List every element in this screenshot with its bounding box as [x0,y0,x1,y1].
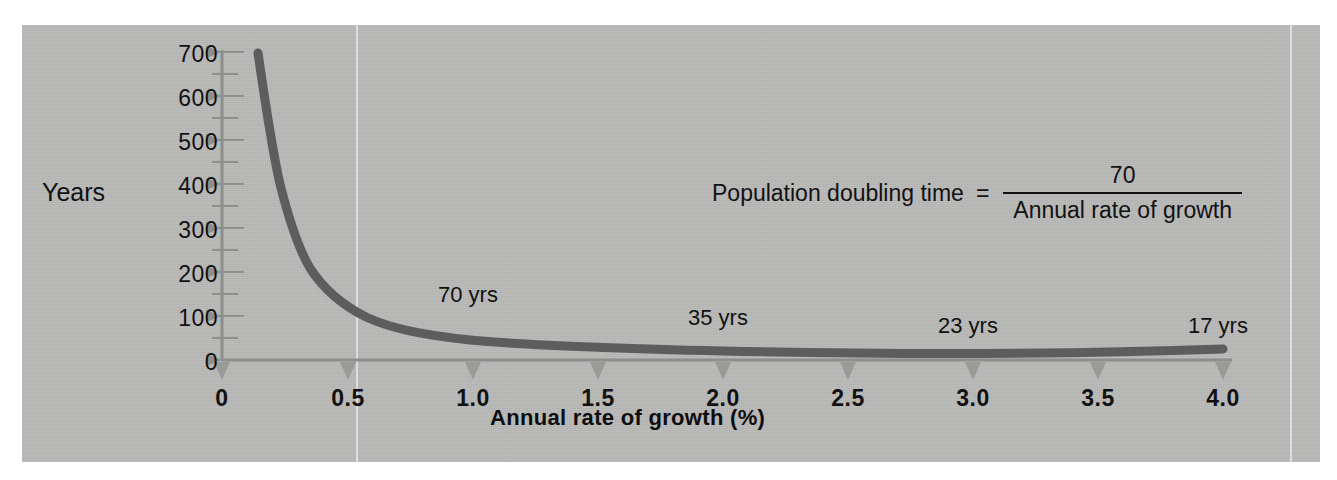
x-tick-label: 3.0 [938,385,1008,412]
y-tick-label: 0 [148,349,218,376]
y-tick-label: 600 [148,85,218,112]
y-tick-label: 200 [148,261,218,288]
curve-annotation: 35 yrs [688,305,748,331]
y-tick-label: 700 [148,41,218,68]
formula-denominator: Annual rate of growth [1003,194,1242,224]
x-axis-title: Annual rate of growth (%) [490,405,765,431]
y-tick-label: 300 [148,217,218,244]
figure-container: 700 600 500 400 300 200 100 0 Years 0 0.… [0,0,1337,480]
y-tick-label: 100 [148,305,218,332]
formula-fraction: 70 Annual rate of growth [1003,162,1242,224]
y-axis-title: Years [42,178,105,207]
curve-annotation: 70 yrs [438,282,498,308]
x-tick-label: 0.5 [313,385,383,412]
x-tick-label: 3.5 [1063,385,1133,412]
y-tick-label: 500 [148,129,218,156]
y-tick-label: 400 [148,173,218,200]
formula-numerator: 70 [1100,162,1146,192]
x-tick-label: 0 [187,385,257,412]
x-tick-label: 4.0 [1188,385,1258,412]
formula-equals-sign: = [976,180,989,207]
curve-annotation: 17 yrs [1188,313,1248,339]
x-tick-label: 2.5 [813,385,883,412]
formula-block: Population doubling time = 70 Annual rat… [712,162,1242,224]
curve-annotation: 23 yrs [938,313,998,339]
scan-seam-right [1290,25,1292,462]
formula-left-side: Population doubling time [712,180,964,207]
